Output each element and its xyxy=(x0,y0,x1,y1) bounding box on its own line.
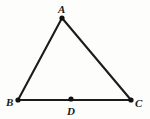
point-label-C: C xyxy=(135,97,143,109)
geometry-figure: A B C D xyxy=(0,0,150,119)
point-label-D: D xyxy=(66,105,75,117)
vertex-dot-C xyxy=(128,97,133,102)
point-label-A: A xyxy=(57,3,65,15)
triangle-diagram-canvas: A B C D xyxy=(0,0,150,119)
point-label-B: B xyxy=(5,96,13,108)
edge-AB xyxy=(18,18,62,100)
edge-AC xyxy=(62,18,131,100)
point-dot-D xyxy=(68,96,73,101)
vertex-dot-A xyxy=(59,15,64,20)
triangle-edges xyxy=(18,18,131,100)
point-markers xyxy=(15,15,133,102)
vertex-dot-B xyxy=(15,97,20,102)
